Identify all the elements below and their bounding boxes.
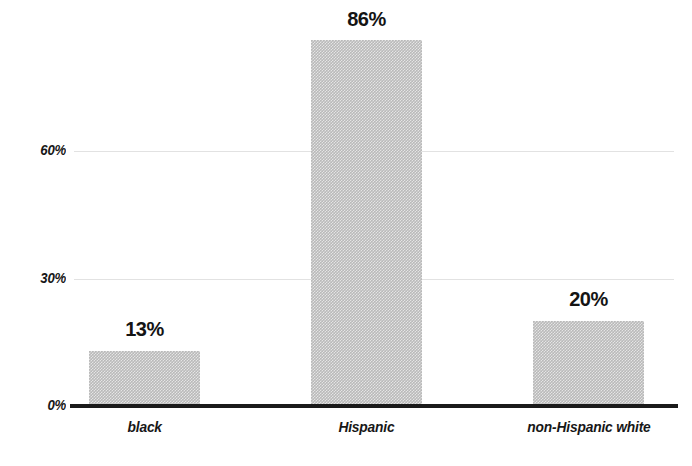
y-axis-tick-label-60: 60%: [10, 141, 66, 158]
x-axis-category-label-black: black: [127, 418, 161, 435]
bar-black: [89, 351, 200, 406]
x-axis-category-hispanic: Hispanic: [311, 418, 422, 435]
y-axis-tick-0: 0%: [0, 396, 66, 414]
bar-value-label-non-hispanic-white: 20%: [533, 288, 644, 311]
x-axis-line: [70, 404, 678, 408]
y-axis-tick-60: 60%: [0, 141, 66, 159]
bar-non-hispanic-white: [533, 321, 644, 406]
bar-value-label-black: 13%: [89, 318, 200, 341]
x-axis-category-black: black: [89, 418, 200, 435]
x-axis-category-label-non-hispanic-white: non-Hispanic white: [527, 418, 650, 435]
bar-hispanic: [311, 40, 422, 406]
plot-area: 60% 30% 0% 13% 86% 20% black Hispanic no…: [0, 0, 692, 466]
x-axis-category-label-hispanic: Hispanic: [338, 418, 394, 435]
bar-chart: 60% 30% 0% 13% 86% 20% black Hispanic no…: [0, 0, 692, 466]
bar-value-label-hispanic: 86%: [311, 8, 422, 31]
y-axis-tick-30: 30%: [0, 269, 66, 287]
x-axis-category-non-hispanic-white: non-Hispanic white: [503, 418, 674, 435]
y-axis-tick-label-0: 0%: [10, 396, 66, 413]
y-axis-tick-label-30: 30%: [10, 269, 66, 286]
